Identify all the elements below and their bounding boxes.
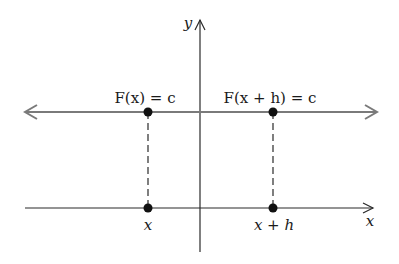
- horizontal-line-c: [25, 105, 377, 119]
- x-axis-label: x: [366, 212, 375, 230]
- point-x-plus-h: [269, 204, 278, 213]
- y-axis-label: y: [183, 14, 193, 32]
- label-x-plus-h: x + h: [254, 216, 294, 234]
- label-x: x: [144, 216, 153, 234]
- diagram-canvas: y x F(x) = c F(x + h) = c x x + h: [0, 0, 399, 264]
- point-x: [144, 204, 153, 213]
- point-fx: [144, 108, 153, 117]
- label-fxh-equals-c: F(x + h) = c: [224, 89, 317, 107]
- x-axis: [25, 203, 373, 213]
- point-fxh: [269, 108, 278, 117]
- y-axis: [195, 20, 205, 252]
- label-fx-equals-c: F(x) = c: [114, 89, 175, 107]
